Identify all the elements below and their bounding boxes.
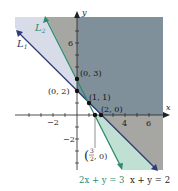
equation-label-l2: 2x + y = 3 xyxy=(79,175,124,185)
tick-label-x-6: 6 xyxy=(146,119,151,128)
svg-text:, 0): , 0) xyxy=(94,152,107,161)
point-0-2 xyxy=(75,89,79,93)
point-label-1-1: (1, 1) xyxy=(89,93,111,102)
point-3-2-0 xyxy=(93,113,97,117)
point-label-0-2: (0, 2) xyxy=(48,87,70,96)
point-label-0-3: (0, 3) xyxy=(80,69,102,78)
point-0-3 xyxy=(75,77,79,81)
tick-label-y-neg2: −2 xyxy=(63,135,75,144)
svg-text:(: ( xyxy=(84,148,89,163)
x-axis-label: x xyxy=(166,103,171,112)
equation-label-l1: x + y = 2 xyxy=(130,175,170,185)
tick-label-y-6: 6 xyxy=(68,39,73,48)
inequality-graph: y x −2 4 6 6 −2 (0, 3) (0, 2) (1, 1) (2,… xyxy=(0,0,178,191)
tick-label-x-4: 4 xyxy=(122,119,127,128)
tick-label-x-neg2: −2 xyxy=(47,118,59,127)
y-axis-label: y xyxy=(81,8,87,17)
point-label-3-2-0: ( 3 2 , 0) xyxy=(84,147,107,163)
point-label-2-0: (2, 0) xyxy=(101,105,123,114)
